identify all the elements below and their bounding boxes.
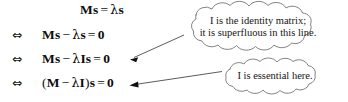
zero-symbol: 0 (107, 75, 114, 90)
equals-operator: = (95, 75, 107, 90)
eigenvalue-equation-figure: Ms=λs ⇔ Ms−λs=0 ⇔ Ms−λIs=0 ⇔ (M−λI)s=0 I (0, 0, 348, 102)
zero-symbol: 0 (98, 27, 105, 42)
zero-symbol: 0 (103, 51, 110, 66)
equation-row-1: ⇔ Ms−λs=0 (6, 27, 105, 43)
matrix-m-symbol: M (42, 51, 55, 66)
equation-expression-2: Ms−λIs=0 (42, 51, 110, 67)
matrix-m-symbol: M (47, 75, 60, 90)
equation-row-2: ⇔ Ms−λIs=0 (6, 51, 110, 67)
equation-row-0: Ms=λs (58, 2, 124, 18)
cloud-shape-2 (214, 57, 336, 95)
equals-operator: = (98, 2, 110, 17)
minus-operator: − (60, 27, 72, 42)
minus-operator: − (60, 51, 72, 66)
equivalence-connector-3: ⇔ (6, 77, 28, 89)
lambda-symbol: λ (71, 75, 79, 90)
equals-operator: = (86, 27, 98, 42)
equals-operator: = (91, 51, 103, 66)
vector-s-symbol-2: s (118, 2, 123, 17)
equivalence-connector-1: ⇔ (6, 29, 28, 41)
equation-expression-3: (M−λI)s=0 (42, 75, 114, 91)
matrix-m-symbol: M (80, 2, 93, 17)
callout-cloud-1: I is the identity matrix; it is superflu… (172, 2, 344, 52)
cloud-shape-1 (172, 2, 344, 52)
equation-row-3: ⇔ (M−λI)s=0 (6, 75, 114, 91)
equation-expression-0: Ms=λs (80, 2, 124, 18)
callout-arrow-2 (130, 72, 223, 88)
callout-cloud-2: I is essential here. (214, 57, 336, 95)
equation-expression-1: Ms−λs=0 (42, 27, 105, 43)
matrix-m-symbol: M (42, 27, 55, 42)
equivalence-connector-2: ⇔ (6, 53, 28, 65)
minus-operator: − (60, 75, 72, 90)
